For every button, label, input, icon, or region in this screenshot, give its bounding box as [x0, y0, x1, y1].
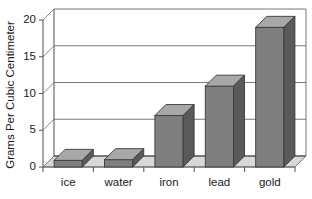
gridline-depth-20	[43, 9, 54, 20]
x-tick-label-gold: gold	[259, 176, 281, 188]
bar-gold	[256, 16, 295, 167]
gridline-depth-15	[43, 46, 54, 57]
bar-lead	[205, 75, 244, 167]
y-tick-label-20: 20	[23, 13, 36, 25]
bar-side-iron	[183, 105, 194, 167]
y-axis-title: Grams Per Cubic Centimeter	[4, 21, 16, 169]
y-tick-label-0: 0	[30, 160, 36, 172]
bar-side-lead	[234, 75, 245, 167]
chart-canvas: 05101520 icewaterironleadgold Grams Per …	[0, 0, 312, 199]
bar-front-water	[104, 160, 132, 167]
gridline-depth-5	[43, 119, 54, 130]
chart-bars	[54, 16, 295, 167]
bar-side-gold	[284, 16, 295, 167]
y-tick-label-15: 15	[23, 50, 36, 62]
x-axis-tick-labels: icewaterironleadgold	[61, 176, 281, 188]
y-tick-label-10: 10	[23, 87, 36, 99]
y-axis-tick-labels: 05101520	[23, 13, 36, 172]
x-tick-label-lead: lead	[209, 176, 231, 188]
x-tick-label-ice: ice	[61, 176, 76, 188]
bar-front-lead	[205, 86, 233, 167]
bar-front-iron	[155, 116, 183, 167]
bar-chart: 05101520 icewaterironleadgold Grams Per …	[0, 0, 312, 199]
x-tick-label-water: water	[104, 176, 133, 188]
bar-front-ice	[54, 160, 82, 167]
bar-iron	[155, 105, 194, 167]
x-tick-label-iron: iron	[159, 176, 178, 188]
bar-front-gold	[256, 27, 284, 167]
gridline-depth-10	[43, 83, 54, 94]
y-tick-label-5: 5	[30, 123, 36, 135]
